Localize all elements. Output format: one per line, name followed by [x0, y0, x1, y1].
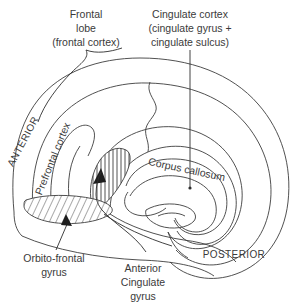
label-anterior-text: ANTERIOR [5, 115, 40, 169]
cingulate-sulcus-line [146, 82, 157, 152]
label-anterior: ANTERIOR [5, 115, 40, 169]
label-cingulate-cortex: Cingulate cortex (cingulate gyrus + cing… [148, 8, 231, 48]
label-frontal-lobe: Frontal lobe (frontal cortex) [52, 8, 120, 48]
brain-diagram-svg: Frontal lobe (frontal cortex) Cingulate … [0, 0, 302, 306]
label-orbito-frontal-gyrus-line1: Orbito-frontal [23, 252, 84, 264]
label-prefrontal-cortex: Prefrontal cortex [32, 120, 72, 197]
label-posterior-text: POSTERIOR [203, 249, 266, 260]
label-orbito-frontal-gyrus-line2: gyrus [41, 266, 67, 278]
label-orbito-frontal-gyrus: Orbito-frontal gyrus [23, 252, 84, 278]
label-anterior-cingulate-gyrus-line3: gyrus [130, 290, 156, 302]
label-cingulate-cortex-line3: cingulate sulcus) [151, 36, 229, 48]
brain-anatomy-diagram: Frontal lobe (frontal cortex) Cingulate … [0, 0, 302, 306]
cortical-ribbon [32, 83, 271, 265]
label-cingulate-cortex-line1: Cingulate cortex [152, 8, 229, 20]
label-anterior-cingulate-gyrus-line1: Anterior [125, 262, 162, 274]
label-prefrontal-cortex-text: Prefrontal cortex [32, 120, 72, 197]
label-frontal-lobe-line1: Frontal [70, 8, 103, 20]
label-anterior-cingulate-gyrus-line2: Cingulate [121, 276, 166, 288]
label-cingulate-cortex-line2: (cingulate gyrus + [148, 22, 231, 34]
label-posterior: POSTERIOR [203, 249, 266, 260]
leader-frontal-lobe [38, 48, 122, 122]
guide-line-crossing [104, 214, 172, 246]
label-frontal-lobe-line2: lobe [76, 22, 96, 34]
label-anterior-cingulate-gyrus: Anterior Cingulate gyrus [121, 262, 166, 302]
label-frontal-lobe-line3: (frontal cortex) [52, 36, 120, 48]
